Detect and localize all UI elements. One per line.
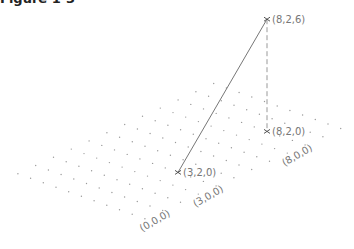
grid-dot bbox=[188, 146, 189, 147]
grid-dot bbox=[160, 107, 161, 108]
grid-dot bbox=[264, 101, 265, 102]
point-marker: (8,2,6) bbox=[264, 14, 305, 25]
grid-dot bbox=[147, 175, 148, 176]
grid-dot bbox=[106, 205, 107, 206]
grid-dot bbox=[149, 205, 150, 206]
grid-dot bbox=[185, 116, 186, 117]
grid-dot bbox=[236, 134, 237, 135]
point-marker: (8,2,0) bbox=[264, 126, 305, 137]
grid-dot bbox=[167, 125, 168, 126]
grid-dot bbox=[165, 167, 166, 168]
grid-dot bbox=[101, 145, 102, 146]
grid-dot bbox=[254, 126, 255, 127]
axis-labels: (0,0,0)(3,0,0)(8,0,0) bbox=[138, 142, 315, 234]
grid-dot bbox=[83, 153, 84, 154]
grid-dot bbox=[251, 96, 252, 97]
grid-dot bbox=[180, 202, 181, 203]
grid-dot bbox=[91, 170, 92, 171]
grid-dot bbox=[228, 117, 229, 118]
grid-dot bbox=[238, 164, 239, 165]
grid-dot bbox=[277, 105, 278, 106]
point-marker: (3,2,0) bbox=[175, 167, 216, 178]
grid-dot bbox=[223, 130, 224, 131]
grid-dot bbox=[124, 196, 125, 197]
grid-dot bbox=[60, 174, 61, 175]
grid-dot bbox=[137, 128, 138, 129]
grid-dot bbox=[213, 155, 214, 156]
grid-dot bbox=[132, 214, 133, 215]
grid-dot bbox=[172, 184, 173, 185]
grid-dot bbox=[88, 140, 89, 141]
grid-dot bbox=[221, 173, 222, 174]
grid-dot bbox=[310, 132, 311, 133]
grid-dot bbox=[106, 132, 107, 133]
grid-dot bbox=[86, 183, 87, 184]
grid-dot bbox=[251, 169, 252, 170]
point-label: (3,2,0) bbox=[183, 167, 216, 178]
grid-dot bbox=[66, 161, 67, 162]
grid-dot bbox=[121, 166, 122, 167]
grid-dot bbox=[221, 100, 222, 101]
grid-dot bbox=[233, 105, 234, 106]
grid-dot bbox=[182, 159, 183, 160]
grid-dot bbox=[109, 162, 110, 163]
figure: Figure 1-3 (3,2,0)(8,2,0)(8,2,6) (0,0,0)… bbox=[0, 0, 354, 249]
grid-dot bbox=[269, 161, 270, 162]
grid-dot bbox=[238, 92, 239, 93]
axis-label: (0,0,0) bbox=[138, 208, 172, 234]
grid-dot bbox=[195, 91, 196, 92]
grid-dot bbox=[218, 143, 219, 144]
grid-dot bbox=[302, 114, 303, 115]
grid-dot bbox=[104, 175, 105, 176]
grid-dot bbox=[193, 134, 194, 135]
point-label: (8,2,6) bbox=[272, 14, 305, 25]
grid-dot bbox=[292, 140, 293, 141]
grid-dot bbox=[139, 158, 140, 159]
axis-label: (8,0,0) bbox=[280, 142, 314, 168]
grid-dot bbox=[243, 152, 244, 153]
grid-dot bbox=[114, 149, 115, 150]
isometric-diagram: (3,2,0)(8,2,0)(8,2,6) (0,0,0)(3,0,0)(8,0… bbox=[0, 0, 354, 249]
grid-dot bbox=[53, 157, 54, 158]
grid-dot bbox=[116, 179, 117, 180]
grid-dot bbox=[30, 178, 31, 179]
grid-dot bbox=[157, 150, 158, 151]
grid-dot bbox=[256, 156, 257, 157]
grid-dot bbox=[81, 196, 82, 197]
points: (3,2,0)(8,2,0)(8,2,6) bbox=[175, 14, 305, 178]
grid-dot bbox=[241, 122, 242, 123]
grid-dot bbox=[142, 116, 143, 117]
grid-dot bbox=[170, 155, 171, 156]
axis-label: (3,0,0) bbox=[191, 183, 225, 209]
grid-dot bbox=[200, 151, 201, 152]
grid-dot bbox=[195, 164, 196, 165]
grid-dot bbox=[17, 173, 18, 174]
grid-dot bbox=[129, 184, 130, 185]
grid-dot bbox=[71, 148, 72, 149]
grid-dot bbox=[190, 104, 191, 105]
grid-dot bbox=[210, 125, 211, 126]
grid-dot bbox=[261, 143, 262, 144]
grid-dot bbox=[68, 191, 69, 192]
grid-dot bbox=[172, 112, 173, 113]
grid-dot bbox=[274, 148, 275, 149]
grid-dot bbox=[213, 83, 214, 84]
grid-dot bbox=[315, 119, 316, 120]
segment-line bbox=[178, 19, 267, 172]
grid-dot bbox=[119, 209, 120, 210]
grid-dot bbox=[340, 128, 341, 129]
grid-dot bbox=[132, 141, 133, 142]
grid-dot bbox=[73, 178, 74, 179]
grid-dot bbox=[162, 137, 163, 138]
grid-dot bbox=[177, 99, 178, 100]
grid-dot bbox=[185, 189, 186, 190]
grid-dot bbox=[203, 108, 204, 109]
grid-dot bbox=[119, 137, 120, 138]
grid-dot bbox=[233, 177, 234, 178]
grid-dot bbox=[226, 160, 227, 161]
grid-dot bbox=[167, 197, 168, 198]
grid-dot bbox=[96, 157, 97, 158]
grid-dot bbox=[322, 136, 323, 137]
grid-dot bbox=[43, 182, 44, 183]
grid-dot bbox=[78, 166, 79, 167]
